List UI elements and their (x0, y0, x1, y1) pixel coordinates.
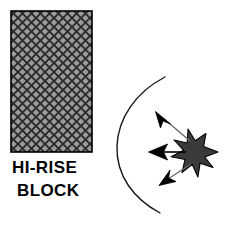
explosion-burst-star (171, 129, 218, 177)
blast-wave-front-path (117, 77, 165, 213)
explosion-burst (171, 129, 218, 177)
block-label-line1: HI-RISE (12, 158, 77, 177)
blast-arrow-down-left-head (159, 170, 176, 186)
blast-diagram-figure: HI-RISE BLOCK (0, 0, 226, 229)
blast-arrow-down-left (159, 164, 191, 186)
blast-wave-arc (117, 77, 165, 213)
diagram-canvas: HI-RISE BLOCK (0, 0, 226, 229)
block-caption: HI-RISE BLOCK (12, 158, 80, 200)
hi-rise-block-fill (11, 11, 92, 152)
hi-rise-block (11, 11, 92, 152)
blast-arrow-up-left-head (156, 112, 171, 129)
blast-arrow-down-left-shaft (168, 164, 191, 179)
block-label-line2: BLOCK (17, 181, 80, 200)
blast-arrow-up-left (156, 112, 191, 142)
